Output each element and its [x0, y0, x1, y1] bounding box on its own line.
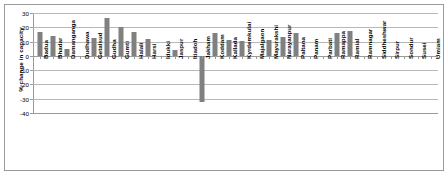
bar-slot [317, 13, 331, 113]
bar-slot [155, 13, 169, 113]
bar-series [33, 13, 438, 113]
x-tick-mark [175, 56, 176, 59]
bar-chart: % change in capacity 3020100-10-20-30-40… [0, 0, 448, 178]
bar [91, 38, 96, 56]
bar-slot [47, 13, 61, 113]
bar-slot [344, 13, 358, 113]
x-tick-mark [269, 56, 270, 59]
bar [334, 33, 339, 56]
bar [213, 33, 218, 56]
bar-slot [87, 13, 101, 113]
bar [280, 37, 285, 56]
bar-slot [303, 13, 317, 113]
bar-slot [249, 13, 263, 113]
bar [51, 36, 56, 56]
bar-slot [33, 13, 47, 113]
bar-slot [384, 13, 398, 113]
bar-slot [128, 13, 142, 113]
bar-slot [74, 13, 88, 113]
x-tick-mark [40, 56, 41, 59]
bar [348, 31, 353, 56]
y-tick-label: 30 [22, 10, 29, 17]
bar-slot [357, 13, 371, 113]
x-tick-mark [242, 56, 243, 59]
bar-slot [411, 13, 425, 113]
y-tick-label: -10 [20, 67, 29, 74]
x-tick-mark [364, 56, 365, 59]
x-tick-mark [431, 56, 432, 59]
x-tick-mark [323, 56, 324, 59]
bar-slot [236, 13, 250, 113]
x-tick-mark [215, 56, 216, 59]
x-tick-mark [134, 56, 135, 59]
x-tick-mark [229, 56, 230, 59]
bar-slot [222, 13, 236, 113]
bar-slot [182, 13, 196, 113]
plot-area: 3020100-10-20-30-40 [33, 13, 438, 113]
x-tick-mark [107, 56, 108, 59]
y-tick-label: -30 [20, 95, 29, 102]
y-tick-label: -40 [20, 110, 29, 117]
x-tick-mark [404, 56, 405, 59]
x-tick-mark [67, 56, 68, 59]
bar-slot [276, 13, 290, 113]
x-tick-mark [391, 56, 392, 59]
bar-slot [330, 13, 344, 113]
bar [64, 49, 69, 56]
y-tick-label: 20 [22, 24, 29, 31]
x-tick-mark [256, 56, 257, 59]
x-tick-mark [310, 56, 311, 59]
bar [145, 39, 150, 55]
x-tick-mark [377, 56, 378, 59]
y-tick-label: 10 [22, 38, 29, 45]
bar-slot [398, 13, 412, 113]
bar-slot [290, 13, 304, 113]
bar-slot [371, 13, 385, 113]
bar [226, 40, 231, 56]
bar-slot [60, 13, 74, 113]
gridline-neg40 [33, 113, 438, 114]
y-tick-label: -20 [20, 81, 29, 88]
x-tick-mark [296, 56, 297, 59]
bar [240, 41, 245, 56]
bar [267, 40, 272, 56]
x-tick-mark [418, 56, 419, 59]
bar [37, 32, 42, 56]
bar [199, 56, 204, 102]
x-tick-mark [94, 56, 95, 59]
x-tick-mark [350, 56, 351, 59]
bar [105, 18, 110, 56]
x-tick-mark [202, 56, 203, 59]
x-tick-mark [188, 56, 189, 59]
x-tick-mark [53, 56, 54, 59]
bar-slot [141, 13, 155, 113]
x-tick-mark [337, 56, 338, 59]
x-tick-mark [148, 56, 149, 59]
bar [294, 33, 299, 56]
bar-slot [101, 13, 115, 113]
x-tick-mark [80, 56, 81, 59]
y-tick-mark [30, 113, 33, 114]
bar-slot [425, 13, 439, 113]
bar [118, 27, 123, 56]
x-tick-mark [121, 56, 122, 59]
bar-slot [114, 13, 128, 113]
bar-slot [195, 13, 209, 113]
bar [132, 32, 137, 56]
x-tick-mark [161, 56, 162, 59]
bar-slot [168, 13, 182, 113]
y-tick-label: 0 [26, 52, 29, 59]
x-tick-mark [283, 56, 284, 59]
bar-slot [209, 13, 223, 113]
bar-slot [263, 13, 277, 113]
